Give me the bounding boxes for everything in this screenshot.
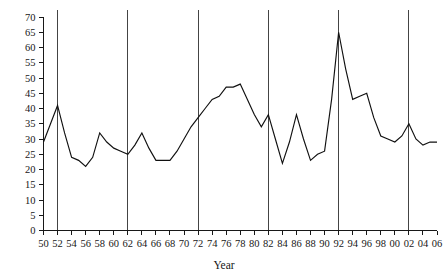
x-tick-label-70: 70 [179,238,190,249]
y-tick-label-50: 50 [25,73,36,84]
x-tick-label-98: 98 [376,238,387,249]
y-tick-label-70: 70 [25,12,36,23]
x-tick-label-82: 82 [263,238,274,249]
x-tick-label-60: 60 [109,238,120,249]
x-tick-label-78: 78 [235,238,246,249]
x-tick-label-58: 58 [94,238,105,249]
y-tick-label-30: 30 [25,134,36,145]
x-tick-label-88: 88 [305,238,316,249]
x-tick-label-94: 94 [347,238,358,249]
x-tick-label-84: 84 [277,238,288,249]
y-tick-label-15: 15 [25,179,36,190]
x-tick-label-66: 66 [151,238,162,249]
x-tick-label-54: 54 [66,238,77,249]
x-axis-title: Year [213,259,234,271]
y-tick-label-60: 60 [25,42,36,53]
x-tick-label-96: 96 [361,238,372,249]
x-tick-label-52: 52 [52,238,63,249]
x-axis: 5052545658606264666870727476788082848688… [38,231,442,249]
y-tick-label-5: 5 [30,210,35,221]
reference-lines-group [58,10,409,231]
x-tick-label-06: 06 [432,238,443,249]
y-tick-label-35: 35 [25,118,36,129]
x-tick-label-72: 72 [193,238,204,249]
y-tick-label-10: 10 [25,195,36,206]
x-tick-label-50: 50 [38,238,49,249]
y-tick-label-65: 65 [25,27,36,38]
y-tick-label-20: 20 [25,164,36,175]
line-chart-figure: 0510152025303540455055606570 50525456586… [0,0,448,278]
x-tick-label-64: 64 [137,238,148,249]
x-tick-label-56: 56 [80,238,91,249]
x-tick-label-90: 90 [319,238,330,249]
y-tick-label-40: 40 [25,103,36,114]
x-tick-label-76: 76 [221,238,232,249]
x-tick-label-00: 00 [390,238,401,249]
x-tick-label-86: 86 [291,238,302,249]
x-tick-label-80: 80 [249,238,260,249]
x-tick-label-68: 68 [165,238,176,249]
data-series-line [44,32,438,166]
x-tick-label-92: 92 [333,238,344,249]
y-tick-label-0: 0 [30,225,35,236]
y-tick-label-55: 55 [25,57,36,68]
y-tick-label-25: 25 [25,149,36,160]
chart-canvas: 0510152025303540455055606570 50525456586… [0,0,448,278]
x-tick-label-04: 04 [418,238,429,249]
y-axis: 0510152025303540455055606570 [25,12,44,237]
x-tick-label-62: 62 [123,238,134,249]
y-tick-label-45: 45 [25,88,36,99]
x-tick-label-74: 74 [207,238,218,249]
x-tick-label-02: 02 [404,238,415,249]
